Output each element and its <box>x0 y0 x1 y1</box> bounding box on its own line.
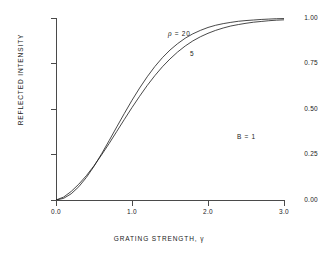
x-tick-mark <box>56 201 57 206</box>
annotation-b-parameter: B = 1 <box>237 133 256 140</box>
x-axis-title: GRATING STRENGTH, γ <box>0 235 318 242</box>
chart-figure: 1.00 0.75 0.50 0.25 0.00 0.0 1.0 2.0 3.0… <box>0 0 318 258</box>
x-tick-mark <box>208 201 209 206</box>
x-tick-mark <box>284 201 285 206</box>
y-axis-title: REFLECTED INTENSITY <box>17 20 24 140</box>
x-tick-label: 3.0 <box>269 208 299 215</box>
x-axis-spine <box>56 200 285 201</box>
curve-group <box>56 18 284 200</box>
rho-value: 20 <box>182 30 191 37</box>
annotation-rho-5: 5 <box>190 50 194 57</box>
annotation-rho-20: ρ = 20 <box>168 29 190 38</box>
x-tick-label: 0.0 <box>41 208 71 215</box>
rho-symbol: ρ <box>168 29 172 38</box>
curve-rho-20 <box>56 19 284 200</box>
plot-area <box>56 18 284 200</box>
b-symbol: B <box>237 133 242 140</box>
b-equals: = <box>245 133 250 140</box>
b-value: 1 <box>252 133 256 140</box>
rho-equals: = <box>175 30 180 37</box>
x-tick-label: 1.0 <box>117 208 147 215</box>
curve-rho-5 <box>56 20 284 200</box>
x-tick-label: 2.0 <box>193 208 223 215</box>
x-tick-mark <box>132 201 133 206</box>
